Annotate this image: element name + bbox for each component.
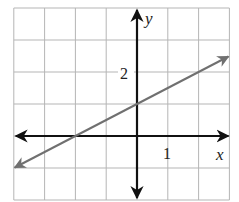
x-axis-label: x xyxy=(215,145,224,164)
x-tick-label-1: 1 xyxy=(163,145,171,162)
y-tick-label-2: 2 xyxy=(120,65,128,82)
grid xyxy=(14,8,230,200)
coordinate-plane: y x 1 2 xyxy=(0,0,239,202)
y-axis-label: y xyxy=(143,9,153,28)
